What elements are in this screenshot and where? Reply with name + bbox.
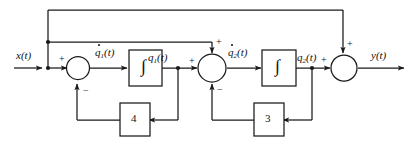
label-q1dot: q1(t): [95, 47, 114, 58]
gain-block-3-value: 3: [265, 113, 271, 124]
wiring-layer: [0, 0, 411, 142]
integrator-2-symbol: ∫: [275, 57, 280, 75]
label-output: y(t): [371, 50, 386, 61]
label-q1: q1(t): [148, 52, 167, 63]
summer2-plus-top-sign: +: [216, 37, 222, 47]
label-input: x(t): [16, 50, 31, 61]
summer1-plus-sign: +: [59, 54, 65, 64]
summing-junction-2: [198, 54, 226, 82]
summer2-plus-left-sign: +: [189, 56, 195, 66]
integrator-1-symbol: ∫: [141, 57, 146, 75]
junction-dot-q2: [310, 66, 314, 70]
summing-junction-1: [67, 57, 90, 80]
junction-dot-q1: [176, 66, 180, 70]
junction-dot-input: [46, 66, 50, 70]
label-q2: q2(t): [297, 52, 316, 63]
summer2-minus-sign: −: [217, 85, 223, 95]
summer1-minus-sign: −: [83, 86, 89, 96]
block-diagram: x(t) q1(t) q1(t) q2(t) q2(t) y(t) ∫ ∫ 4 …: [0, 0, 411, 142]
summer3-plus-left-sign: +: [321, 55, 327, 65]
label-q2dot: q2(t): [228, 47, 247, 58]
summing-junction-3: [331, 55, 357, 81]
gain-block-4-value: 4: [131, 113, 137, 124]
summer3-plus-top-sign: +: [347, 39, 353, 49]
junction-dot-input-branch: [46, 40, 50, 44]
